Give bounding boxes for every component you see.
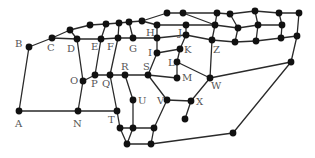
- node-t4: [227, 11, 234, 18]
- node-m: [174, 75, 181, 82]
- node-h5: [148, 141, 155, 148]
- node-g: [130, 35, 137, 42]
- edge-m2-m3: [215, 25, 238, 28]
- node-label-g: G: [129, 43, 137, 54]
- node-h4: [124, 141, 131, 148]
- node-t3: [214, 10, 221, 17]
- node-v: [164, 97, 171, 104]
- node-b6: [294, 33, 301, 40]
- edge-I-K: [157, 49, 180, 53]
- node-m1: [183, 22, 190, 29]
- node-label-w: W: [211, 80, 222, 91]
- edge-A-B: [19, 47, 29, 111]
- node-label-o: O: [70, 75, 78, 86]
- node-d: [74, 36, 81, 43]
- node-label-s: S: [143, 61, 150, 72]
- node-c: [49, 35, 56, 42]
- node-s: [145, 72, 152, 79]
- node-label-p: P: [91, 78, 98, 89]
- node-k: [177, 46, 184, 53]
- node-label-r: R: [121, 61, 129, 72]
- nodes-layer: [16, 8, 303, 148]
- node-label-h: H: [146, 27, 155, 38]
- node-m3: [235, 25, 242, 32]
- node-u3: [116, 20, 123, 27]
- edge-R-U: [125, 75, 133, 100]
- node-label-j: J: [177, 27, 182, 38]
- node-label-d: D: [67, 43, 75, 54]
- edge-rw-br: [233, 62, 291, 133]
- edge-b6-rw: [291, 36, 297, 62]
- node-c1: [67, 27, 74, 34]
- edge-h5-br: [151, 133, 233, 144]
- node-label-n: N: [73, 118, 82, 129]
- node-m2: [212, 22, 219, 29]
- node-label-c: C: [47, 42, 55, 53]
- node-rw: [288, 59, 295, 66]
- node-o: [80, 78, 87, 85]
- node-label-m: M: [182, 72, 192, 83]
- node-h1: [117, 125, 124, 132]
- node-u4: [126, 19, 133, 26]
- node-b5: [278, 35, 285, 42]
- node-label-u: U: [138, 95, 146, 106]
- edge-b4-b5: [256, 38, 281, 41]
- edge-u5-t1: [142, 13, 167, 21]
- node-a: [16, 108, 23, 115]
- node-label-b: B: [15, 38, 22, 49]
- node-r: [122, 72, 129, 79]
- node-label-i: I: [148, 47, 152, 58]
- node-label-t: T: [108, 114, 115, 125]
- node-e: [98, 36, 105, 43]
- node-x: [188, 98, 195, 105]
- node-label-z: Z: [213, 44, 220, 55]
- node-label-l: L: [168, 57, 175, 68]
- node-b: [26, 44, 33, 51]
- edge-Q-T: [110, 75, 117, 111]
- node-j: [183, 32, 190, 39]
- node-label-a: A: [14, 118, 23, 129]
- node-t2: [180, 10, 187, 17]
- edge-Z-b3: [212, 40, 235, 42]
- edges-layer: [19, 11, 299, 144]
- edge-O-N: [78, 81, 83, 111]
- node-h3: [151, 125, 158, 132]
- node-label-q: Q: [102, 78, 110, 89]
- node-m4: [255, 22, 262, 29]
- node-xd: [182, 116, 189, 123]
- node-h2: [130, 125, 137, 132]
- node-t1: [164, 10, 171, 17]
- edge-Z-W: [210, 40, 212, 78]
- edge-S-M: [148, 75, 177, 78]
- node-t6: [276, 10, 283, 17]
- node-u5: [139, 18, 146, 25]
- node-b4: [253, 38, 260, 45]
- node-f: [115, 35, 122, 42]
- node-u: [130, 97, 137, 104]
- graph-diagram: ABCDEFGHJZIKLMWOPQRSUVXNT: [0, 0, 315, 158]
- node-br: [230, 130, 237, 137]
- edge-C-D: [52, 38, 77, 39]
- node-n: [75, 108, 82, 115]
- node-label-k: K: [184, 44, 192, 55]
- node-b3: [232, 39, 239, 46]
- edge-t4-t5: [230, 11, 255, 14]
- node-label-e: E: [91, 41, 98, 52]
- node-label-v: V: [156, 95, 165, 106]
- node-i: [154, 50, 161, 57]
- node-u1: [87, 22, 94, 29]
- edge-t5-t6: [255, 11, 279, 13]
- node-t7: [296, 10, 303, 17]
- node-label-f: F: [107, 41, 114, 52]
- edge-V-X: [167, 100, 191, 101]
- node-z: [209, 37, 216, 44]
- edge-rw-W: [210, 62, 291, 78]
- edge-t7-b6: [297, 13, 299, 36]
- node-label-x: X: [196, 96, 204, 107]
- edge-J-Z: [186, 35, 212, 40]
- node-m5: [279, 22, 286, 29]
- node-u2: [103, 21, 110, 28]
- node-t5: [252, 8, 259, 15]
